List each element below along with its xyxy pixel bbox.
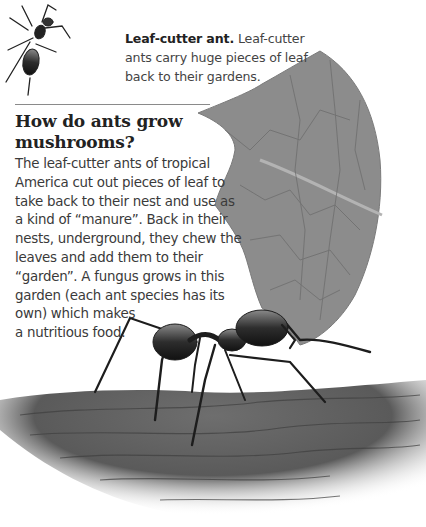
body-line: leaves and add them to their — [15, 249, 230, 268]
body-line: garden (each ant species has its — [15, 287, 230, 306]
body-line: nests, underground, they chew the — [15, 230, 230, 249]
wood-ground-illustration — [0, 380, 426, 522]
body-line: take back to their nest and use as — [15, 193, 230, 212]
section-divider — [15, 104, 210, 105]
caption-title: Leaf-cutter ant. — [125, 31, 234, 46]
body-line: The leaf-cutter ants of tropical — [15, 155, 230, 174]
body-line: own) which makes — [15, 305, 230, 324]
body-line: a nutritious food. — [15, 324, 230, 343]
article-heading: How do ants grow mushrooms? — [15, 111, 215, 153]
body-line: a kind of “manure”. Back in their — [15, 211, 230, 230]
body-line: America cut out pieces of leaf to — [15, 174, 230, 193]
illustration-caption: Leaf-cutter ant. Leaf-cutter ants carry … — [125, 29, 315, 86]
body-line: “garden”. A fungus grows in this — [15, 268, 230, 287]
small-ant-illustration — [6, 5, 70, 95]
article-body: The leaf-cutter ants of tropical America… — [15, 155, 230, 343]
